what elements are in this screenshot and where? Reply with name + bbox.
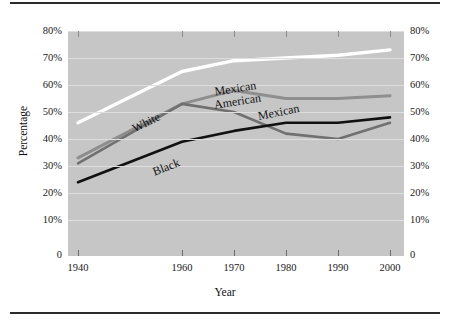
series-line-black: [78, 117, 390, 182]
tickmark-1940: [78, 250, 79, 256]
chart-figure: White Mexican American Mexican Black 80%…: [0, 0, 450, 322]
tickmark-1980: [286, 250, 287, 256]
gridline-30: [68, 166, 404, 167]
tickmark-top-1980: [286, 31, 287, 37]
top-divider-rule: [10, 2, 440, 4]
tickmark-top-1990: [338, 31, 339, 37]
bottom-divider-rule: [10, 312, 440, 314]
gridline-20: [68, 193, 404, 194]
ytick-right-70: 70%: [410, 53, 446, 63]
ytick-left-80: 80%: [18, 26, 62, 36]
ytick-right-40: 40%: [410, 134, 446, 144]
xtick-1980: 1980: [266, 262, 306, 273]
tickmark-1960: [182, 250, 183, 256]
xtick-2000: 2000: [370, 262, 410, 273]
gridline-10: [68, 220, 404, 221]
tickmark-1970: [234, 250, 235, 256]
gridline-80: [68, 31, 404, 32]
tickmark-top-1970: [234, 31, 235, 37]
ytick-right-80: 80%: [410, 26, 446, 36]
ytick-left-10: 10%: [18, 215, 62, 225]
ytick-right-20: 20%: [410, 188, 446, 198]
xtick-1940: 1940: [58, 262, 98, 273]
series-lines: [68, 31, 404, 256]
tickmark-top-2000: [390, 31, 391, 37]
y-axis-title: Percentage: [17, 61, 29, 201]
ytick-right-50: 50%: [410, 107, 446, 117]
tickmark-top-1960: [182, 31, 183, 37]
gridline-70: [68, 58, 404, 59]
gridline-50: [68, 112, 404, 113]
ytick-right-30: 30%: [410, 161, 446, 171]
xtick-1990: 1990: [318, 262, 358, 273]
tickmark-top-1940: [78, 31, 79, 37]
xtick-1970: 1970: [214, 262, 254, 273]
gridline-40: [68, 139, 404, 140]
tickmark-2000: [390, 250, 391, 256]
x-axis-title: Year: [0, 286, 450, 298]
plot-area: White Mexican American Mexican Black: [68, 31, 404, 256]
ytick-right-0: 0: [410, 250, 446, 260]
ytick-right-10: 10%: [410, 215, 446, 225]
ytick-left-0: 0: [18, 250, 62, 260]
xtick-1960: 1960: [162, 262, 202, 273]
tickmark-1990: [338, 250, 339, 256]
ytick-right-60: 60%: [410, 80, 446, 90]
